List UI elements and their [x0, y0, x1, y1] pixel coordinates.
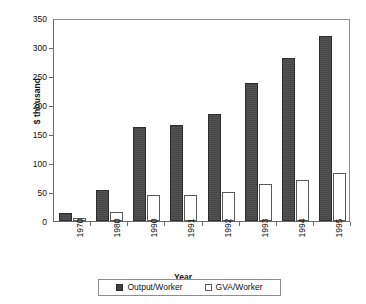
bar-output-worker-1992	[208, 114, 221, 221]
y-axis-tick-label: 100	[17, 160, 47, 169]
y-axis-tick-label: 350	[17, 15, 47, 24]
y-axis-tick-label: 0	[17, 218, 47, 227]
x-axis-tick-mark	[202, 222, 203, 226]
outlined-white-square-icon	[205, 284, 212, 291]
x-axis-tick-mark	[276, 222, 277, 226]
x-axis-tick-label: 1994	[298, 208, 307, 248]
legend-label: Output/Worker	[127, 283, 182, 292]
x-axis-tick-label: 1970	[76, 208, 85, 248]
legend-label: GVA/Worker	[216, 283, 263, 292]
bar-output-worker-1990	[133, 127, 146, 221]
bar-output-worker-1995	[319, 36, 332, 221]
x-axis-tick-label: 1992	[224, 208, 233, 248]
x-axis-tick-label: 1993	[261, 208, 270, 248]
x-axis-tick-label: 1990	[150, 208, 159, 248]
bar-output-worker-1993	[245, 83, 258, 221]
plot-area	[53, 19, 350, 222]
chart-legend: Output/WorkerGVA/Worker	[98, 279, 281, 296]
legend-item: Output/Worker	[116, 283, 182, 292]
bar-output-worker-1970	[59, 213, 72, 221]
x-axis-tick-mark	[239, 222, 240, 226]
x-axis-tick-mark	[164, 222, 165, 226]
x-axis-tick-mark	[90, 222, 91, 226]
y-axis-tick-label: 200	[17, 102, 47, 111]
bar-output-worker-1994	[282, 58, 295, 221]
y-axis-tick-label: 50	[17, 189, 47, 198]
x-axis-tick-label: 1991	[187, 208, 196, 248]
bar-output-worker-1980	[96, 190, 109, 221]
legend-item: GVA/Worker	[205, 283, 263, 292]
bar-chart: $ thousand 050100150200250300350 1970198…	[0, 0, 366, 304]
x-axis-tick-mark	[350, 222, 351, 226]
x-axis-tick-label: 1980	[113, 208, 122, 248]
filled-dark-square-icon	[116, 284, 123, 291]
x-axis-tick-mark	[313, 222, 314, 226]
y-axis-tick-label: 300	[17, 44, 47, 53]
bar-output-worker-1991	[170, 125, 183, 221]
y-axis-tick-label: 250	[17, 73, 47, 82]
x-axis-tick-label: 1995	[335, 208, 344, 248]
x-axis-tick-mark	[127, 222, 128, 226]
y-axis-tick-label: 150	[17, 131, 47, 140]
